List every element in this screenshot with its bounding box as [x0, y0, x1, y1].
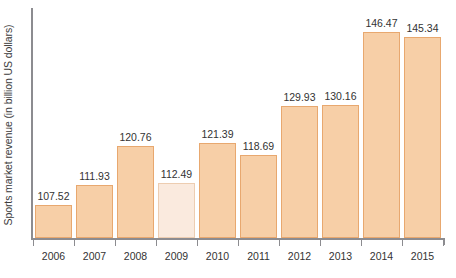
x-axis-category-label-2009: 2009	[155, 250, 199, 262]
x-axis-tick	[197, 240, 198, 246]
bar-group: 111.93	[74, 8, 115, 238]
x-axis-tick	[115, 240, 116, 246]
bar-value-label-2011: 118.69	[231, 140, 286, 152]
bar-2008[interactable]	[117, 146, 154, 238]
x-axis-tick	[361, 240, 362, 246]
x-axis-category-label-2008: 2008	[114, 250, 158, 262]
x-axis-tick	[402, 240, 403, 246]
bar-group: 121.39	[197, 8, 238, 238]
bar-value-label-2007: 111.93	[67, 170, 122, 182]
bar-group: 146.47	[361, 8, 402, 238]
x-axis-category-label-2015: 2015	[401, 250, 445, 262]
x-axis-category-label-2013: 2013	[319, 250, 363, 262]
x-axis-tick	[443, 240, 444, 246]
x-axis-category-label-2006: 2006	[32, 250, 76, 262]
x-axis-category-label-2014: 2014	[360, 250, 404, 262]
bar-2010[interactable]	[199, 143, 236, 238]
bar-2007[interactable]	[76, 185, 113, 238]
bar-group: 112.49	[156, 8, 197, 238]
x-axis-tick	[238, 240, 239, 246]
x-axis-tick	[320, 240, 321, 246]
y-axis-title: Sports market revenue (in billion US dol…	[0, 0, 16, 250]
bar-2014[interactable]	[363, 32, 400, 238]
plot-area: 107.52111.93120.76112.49121.39118.69129.…	[33, 8, 443, 238]
bar-group: 118.69	[238, 8, 279, 238]
bar-2006[interactable]	[35, 205, 72, 238]
bar-value-label-2008: 120.76	[108, 131, 163, 143]
bar-2012[interactable]	[281, 106, 318, 238]
bar-2015[interactable]	[404, 37, 441, 238]
bar-group: 145.34	[402, 8, 443, 238]
x-axis-category-label-2011: 2011	[237, 250, 281, 262]
x-axis-tick	[74, 240, 75, 246]
bar-group: 107.52	[33, 8, 74, 238]
bar-group: 130.16	[320, 8, 361, 238]
bar-value-label-2009: 112.49	[149, 168, 204, 180]
bar-value-label-2013: 130.16	[313, 90, 368, 102]
bar-value-label-2006: 107.52	[26, 190, 81, 202]
x-axis-tick	[33, 240, 34, 246]
bar-group: 120.76	[115, 8, 156, 238]
x-axis-category-label-2010: 2010	[196, 250, 240, 262]
bar-chart: Sports market revenue (in billion US dol…	[0, 0, 456, 278]
y-axis-title-text: Sports market revenue (in billion US dol…	[2, 25, 14, 226]
x-axis-category-label-2007: 2007	[73, 250, 117, 262]
bar-2009[interactable]	[158, 183, 195, 238]
bar-value-label-2015: 145.34	[395, 22, 450, 34]
bar-2013[interactable]	[322, 105, 359, 238]
x-axis-category-label-2012: 2012	[278, 250, 322, 262]
bar-value-label-2010: 121.39	[190, 128, 245, 140]
x-axis-tick	[156, 240, 157, 246]
bar-group: 129.93	[279, 8, 320, 238]
x-axis-tick	[279, 240, 280, 246]
bar-2011[interactable]	[240, 155, 277, 238]
